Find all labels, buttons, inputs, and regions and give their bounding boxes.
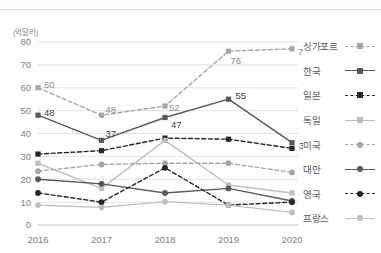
top-ghost-strip [0, 0, 381, 8]
series-lines [38, 49, 292, 213]
data-point-marker [162, 138, 167, 143]
data-point-marker [99, 138, 104, 143]
legend-item-label: 프랑스 [303, 211, 345, 225]
legend-item-일본[interactable]: 일본 [303, 83, 381, 108]
data-point-marker [289, 190, 294, 195]
legend-key-marker [357, 68, 363, 74]
legend-key-swatch-한국 [345, 66, 375, 76]
data-point-marker [162, 115, 167, 120]
data-point-marker [35, 202, 41, 208]
legend-key-marker [357, 215, 363, 221]
data-point-marker [99, 204, 105, 210]
data-point-marker [35, 151, 40, 156]
data-point-marker [35, 161, 40, 166]
legend-item-label: 영국 [303, 187, 345, 201]
y-axis-tick-label: 70 [20, 59, 31, 70]
y-axis-tick-label: 0 [26, 219, 31, 230]
data-point-marker [226, 186, 232, 192]
x-axis-tick-label: 2017 [91, 234, 112, 245]
legend-key-swatch-일본 [345, 90, 375, 100]
legend-item-싱가포르[interactable]: 싱가포르 [303, 34, 381, 59]
data-point-marker [289, 169, 295, 175]
data-point-marker [226, 202, 232, 208]
data-point-marker [35, 85, 40, 90]
data-point-marker [226, 160, 232, 166]
legend-key-swatch-대만 [345, 164, 375, 174]
legend-item-한국[interactable]: 한국 [303, 59, 381, 84]
data-point-marker [35, 168, 41, 174]
legend-item-label: 대만 [303, 162, 345, 176]
data-label-한국-2018: 47 [171, 119, 182, 130]
data-point-marker [99, 113, 104, 118]
y-axis-tick-label: 40 [20, 128, 31, 139]
x-axis-tick-label: 2020 [281, 234, 302, 245]
legend-item-label: 독일 [303, 113, 345, 127]
legend-item-label: 한국 [303, 64, 345, 78]
legend-key-marker [357, 43, 363, 49]
line-chart-svg: 01020304050607080 20162017201820192020 6… [0, 16, 303, 253]
legend-item-label: 미국 [303, 138, 345, 152]
data-label-싱가포르-2017: 48 [106, 104, 117, 115]
data-point-marker [162, 190, 168, 196]
legend-key-swatch-독일 [345, 115, 375, 125]
data-label-한국-2019: 55 [236, 90, 247, 101]
data-point-marker [226, 97, 231, 102]
data-point-marker [99, 181, 105, 187]
data-point-marker [162, 165, 168, 171]
legend-item-프랑스[interactable]: 프랑스 [303, 206, 381, 231]
data-label-싱가포르-2016: 60 [44, 79, 55, 90]
legend-key-marker [357, 166, 363, 172]
x-axis-tick-label: 2018 [154, 234, 175, 245]
data-point-marker [289, 46, 294, 51]
legend-key-marker [357, 142, 363, 148]
legend-item-영국[interactable]: 영국 [303, 182, 381, 207]
top-divider [0, 9, 381, 10]
y-axis-tick-label: 50 [20, 105, 31, 116]
data-label-한국-2016: 48 [44, 107, 55, 118]
x-axis-tick-label: 2016 [27, 234, 48, 245]
gridlines [38, 42, 298, 225]
legend-item-대만[interactable]: 대만 [303, 157, 381, 182]
data-label-싱가포르-2018: 52 [169, 102, 180, 113]
legend-key-marker [357, 191, 363, 197]
data-point-marker [226, 49, 231, 54]
data-point-marker [162, 199, 168, 205]
data-point-marker [226, 137, 231, 142]
data-point-marker [289, 140, 294, 145]
data-point-marker [35, 176, 41, 182]
chart-legend: 싱가포르한국일본독일미국대만영국프랑스 [303, 34, 381, 234]
data-point-marker [35, 190, 41, 196]
data-label-싱가포르-2019: 76 [231, 55, 242, 66]
x-axis-ticks: 20162017201820192020 [27, 234, 302, 245]
legend-item-label: 일본 [303, 88, 345, 102]
legend-item-label: 싱가포르 [303, 39, 345, 53]
data-point-marker [99, 199, 105, 205]
legend-key-swatch-프랑스 [345, 213, 375, 223]
series-markers [35, 46, 295, 215]
y-axis-tick-label: 20 [20, 174, 31, 185]
legend-key-swatch-미국 [345, 140, 375, 150]
legend-item-미국[interactable]: 미국 [303, 132, 381, 157]
data-point-marker [99, 148, 104, 153]
data-point-marker [162, 103, 167, 108]
y-axis-tick-label: 80 [20, 36, 31, 47]
y-axis-tick-label: 30 [20, 151, 31, 162]
data-point-marker [289, 199, 295, 205]
chart-screenshot: (억달러) 01020304050607080 2016201720182019… [0, 0, 381, 253]
data-point-marker [289, 146, 294, 151]
legend-key-swatch-영국 [345, 189, 375, 199]
legend-key-marker [357, 117, 363, 123]
legend-key-marker [357, 92, 363, 98]
y-axis-tick-label: 10 [20, 197, 31, 208]
data-point-marker [289, 210, 295, 216]
legend-item-독일[interactable]: 독일 [303, 108, 381, 133]
y-axis-tick-label: 60 [20, 82, 31, 93]
y-axis-ticks: 01020304050607080 [20, 36, 31, 230]
data-point-marker [99, 161, 105, 167]
data-point-marker [35, 113, 40, 118]
data-label-한국-2017: 37 [106, 128, 117, 139]
legend-key-swatch-싱가포르 [345, 41, 375, 51]
x-axis-tick-label: 2019 [218, 234, 239, 245]
